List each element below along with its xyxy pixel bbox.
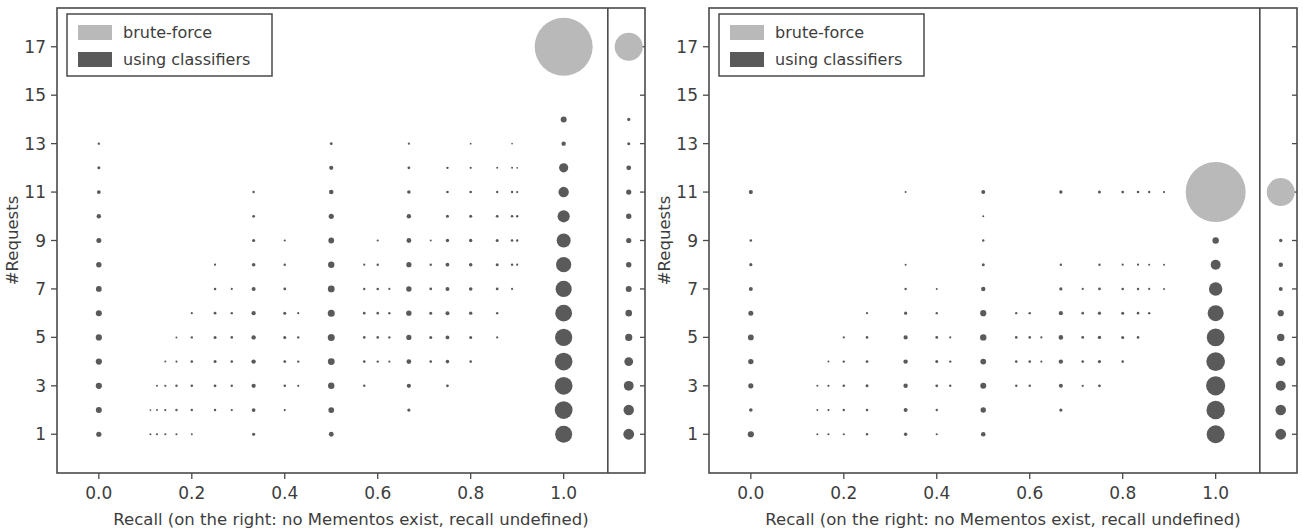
data-point — [936, 312, 938, 314]
data-point — [624, 381, 634, 391]
data-point — [496, 215, 499, 218]
data-point — [252, 384, 256, 388]
x-axis-tick-label: 0.6 — [1016, 483, 1043, 503]
data-point — [1081, 360, 1084, 363]
data-point — [1206, 352, 1225, 371]
data-point — [406, 238, 411, 243]
data-point — [469, 360, 472, 363]
data-point — [980, 383, 986, 389]
data-point — [511, 167, 513, 169]
data-point — [903, 359, 907, 363]
data-point — [407, 166, 410, 169]
data-point — [283, 336, 286, 339]
data-point — [283, 288, 286, 291]
data-point — [496, 191, 498, 193]
data-point — [1098, 288, 1101, 291]
data-point — [555, 426, 572, 443]
data-point — [96, 334, 102, 340]
legend-swatch-brute-force — [78, 25, 112, 40]
data-point — [982, 239, 984, 241]
data-point — [982, 215, 984, 217]
data-point — [96, 262, 101, 267]
data-point — [827, 385, 829, 387]
data-point — [297, 312, 299, 314]
data-point — [516, 264, 518, 266]
y-axis-tick-label: 13 — [676, 134, 698, 154]
data-point — [904, 408, 908, 412]
y-axis-tick-label: 15 — [676, 85, 698, 105]
data-point — [252, 311, 256, 315]
y-axis-tick-label: 17 — [24, 37, 46, 57]
data-point — [980, 334, 986, 340]
data-point — [511, 288, 513, 290]
data-point — [981, 432, 986, 437]
data-point — [469, 191, 472, 194]
data-point — [1209, 282, 1222, 295]
data-point — [1082, 385, 1084, 387]
data-point — [1059, 335, 1064, 340]
data-point — [626, 165, 631, 170]
data-point — [376, 336, 379, 339]
y-axis-tick-label: 13 — [24, 134, 46, 154]
data-point — [98, 142, 100, 144]
data-point — [429, 288, 432, 291]
data-point — [329, 166, 333, 170]
x-axis-tick-label: 0.0 — [737, 483, 764, 503]
data-point — [283, 312, 286, 315]
data-point — [97, 190, 101, 194]
x-axis-tick-label: 1.0 — [550, 483, 577, 503]
x-axis-tick-label: 0.8 — [457, 483, 484, 503]
y-axis-label: #Requests — [655, 196, 674, 285]
data-point — [1098, 384, 1101, 387]
chart-svg-right: 0.00.20.40.60.81.01357911131517Recall (o… — [652, 0, 1303, 528]
data-point — [469, 336, 472, 339]
data-point — [469, 263, 473, 267]
data-point — [511, 264, 513, 266]
data-point — [624, 405, 634, 415]
data-point — [748, 334, 754, 340]
data-point — [1015, 336, 1018, 339]
data-point — [827, 433, 829, 435]
legend-label: brute-force — [123, 23, 212, 42]
data-point — [1279, 287, 1283, 291]
data-point — [96, 407, 102, 413]
data-point — [214, 264, 216, 266]
data-point — [1206, 401, 1224, 419]
data-point — [936, 433, 938, 435]
data-point — [623, 429, 634, 440]
data-point — [615, 33, 643, 61]
data-point — [749, 190, 753, 194]
data-point — [252, 263, 256, 267]
data-point — [388, 336, 390, 338]
data-point — [97, 214, 101, 218]
data-point — [191, 433, 193, 435]
data-point — [1059, 287, 1062, 290]
data-point — [626, 238, 631, 243]
series-brute-force — [1186, 162, 1295, 222]
data-point — [1122, 264, 1124, 266]
data-point — [866, 336, 869, 339]
data-point — [376, 312, 379, 315]
data-point — [231, 312, 233, 314]
data-point — [511, 143, 513, 145]
data-point — [556, 281, 572, 297]
data-point — [363, 360, 366, 363]
y-axis-tick-label: 11 — [676, 182, 698, 202]
data-point — [1275, 429, 1286, 440]
x-axis-tick-label: 0.2 — [178, 483, 205, 503]
data-point — [406, 335, 411, 340]
data-point — [748, 431, 754, 437]
data-point — [96, 358, 102, 364]
data-point — [1207, 425, 1225, 443]
data-point — [191, 336, 193, 338]
data-point — [1277, 334, 1284, 341]
legend-label: brute-force — [775, 23, 864, 42]
data-point — [816, 433, 818, 435]
data-point — [561, 116, 567, 122]
data-point — [214, 312, 217, 315]
data-point — [363, 385, 365, 387]
data-point — [1276, 357, 1285, 366]
data-point — [816, 409, 818, 411]
data-point — [252, 287, 256, 291]
data-point — [511, 239, 514, 242]
